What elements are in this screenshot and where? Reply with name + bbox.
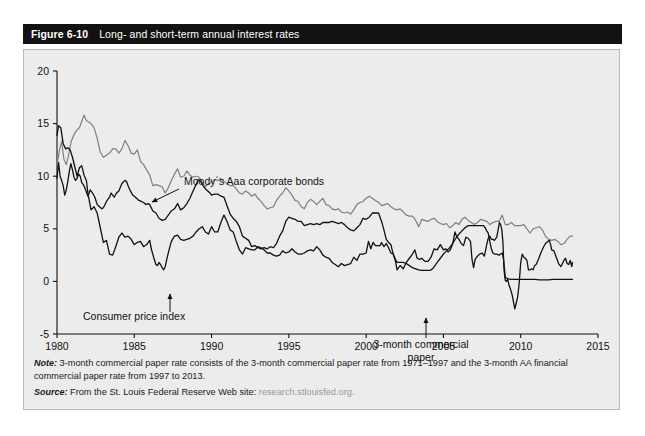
figure-note: Note: 3-month commercial paper rate cons…: [34, 357, 606, 382]
figure-container: Figure 6-10 Long- and short-term annual …: [0, 0, 645, 436]
y-tick-label: 20: [37, 65, 49, 77]
x-tick-label: 1980: [45, 340, 69, 352]
y-tick-label: -5: [40, 328, 49, 340]
source-label: Source:: [34, 387, 68, 397]
figure-number: Figure 6-10: [31, 28, 88, 40]
note-label: Note:: [34, 358, 57, 368]
x-tick-label: 2015: [586, 340, 610, 352]
y-tick-label: 0: [43, 275, 49, 287]
note-text: 3-month commercial paper rate consists o…: [34, 358, 568, 381]
moodys-annotation-arrow: [152, 189, 179, 202]
source-url: research.stlouisfed.org.: [259, 387, 355, 397]
commercial-paper-annotation-label-line1: 3-month commercial: [373, 338, 468, 350]
cpi-annotation-label: Consumer price index: [83, 310, 186, 322]
y-tick-label: 10: [37, 170, 49, 182]
y-tick-label: 15: [37, 117, 49, 129]
figure-source: Source: From the St. Louis Federal Reser…: [34, 386, 606, 399]
x-tick-label: 1990: [200, 340, 224, 352]
source-text: From the St. Louis Federal Reserve Web s…: [70, 387, 256, 397]
interest-rates-line-chart: -505101520198019851990199520002005201020…: [24, 50, 619, 409]
figure-title: Long- and short-term annual interest rat…: [99, 28, 299, 40]
x-tick-label: 1985: [123, 340, 147, 352]
x-tick-label: 2010: [509, 340, 533, 352]
x-tick-label: 1995: [277, 340, 301, 352]
moodys-annotation-label: Moody´s Aaa corporate bonds: [184, 175, 324, 187]
y-tick-label: 5: [43, 222, 49, 234]
figure-title-bar: Figure 6-10 Long- and short-term annual …: [23, 24, 622, 44]
chart-panel: -505101520198019851990199520002005201020…: [23, 49, 620, 410]
